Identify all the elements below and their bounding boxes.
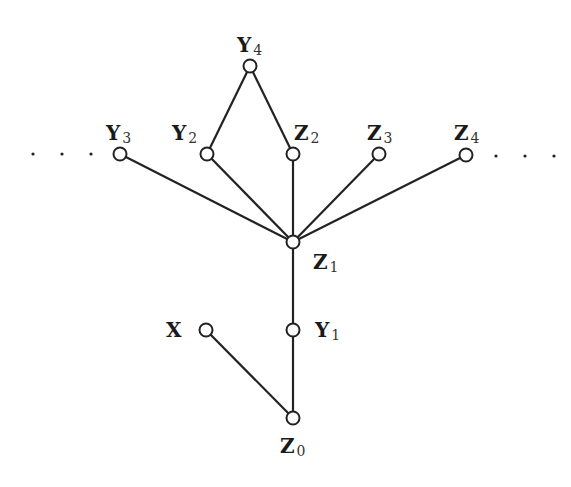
node-x: [200, 324, 213, 337]
ellipsis-left: [31, 152, 92, 155]
label-y4: Y4: [236, 33, 262, 58]
node-z0: [287, 412, 300, 425]
label-z4: Z4: [454, 121, 480, 146]
node-z3: [373, 148, 386, 161]
graph-diagram: Y4 Y3 Y2 Z2 Z3 Z4 Z1 X Y1 Z0: [0, 0, 571, 487]
node-z4: [460, 149, 473, 162]
edge-z4-z1: [293, 155, 466, 242]
node-y4: [244, 60, 257, 73]
edge-x-z0: [206, 330, 293, 418]
node-z2: [287, 148, 300, 161]
label-y2: Y2: [171, 121, 197, 146]
label-z2: Z2: [294, 121, 320, 146]
label-x: X: [166, 318, 182, 342]
label-z3: Z3: [367, 121, 393, 146]
edge-z3-z1: [293, 154, 379, 242]
node-y1: [287, 324, 300, 337]
label-z1: Z1: [313, 250, 339, 275]
label-y3: Y3: [105, 121, 131, 146]
edge-y3-z1: [120, 154, 293, 242]
label-y1: Y1: [314, 318, 340, 343]
node-y2: [201, 148, 214, 161]
label-z0: Z0: [280, 434, 306, 459]
edge-y2-z1: [207, 154, 293, 242]
ellipsis-right: [494, 154, 555, 157]
edge-y4-z2: [250, 66, 293, 154]
node-y3: [114, 148, 127, 161]
edge-y4-y2: [207, 66, 250, 154]
node-z1: [287, 236, 300, 249]
